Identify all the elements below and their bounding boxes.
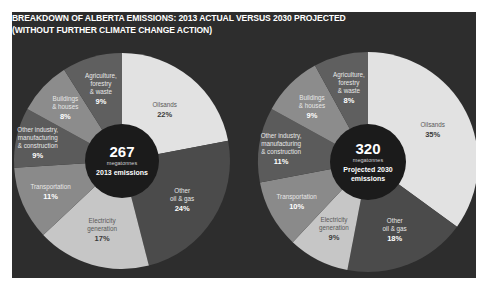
slice-label-text: Electricity [89,217,117,225]
center-caption: 2013 emissions [96,169,148,176]
center-unit: megatonnes [107,160,138,166]
slice-label-text: Transportation [277,193,318,201]
slice-percent: 22% [157,110,172,119]
slice-label-text: Transportation [30,183,71,191]
slice-label-text: & waste [338,87,361,94]
slice-label-text: oil & gas [383,225,407,233]
slice-percent: 9% [32,151,43,160]
center-caption: emissions [351,175,385,182]
slice-label-text: Agriculture, [333,71,365,79]
slice-label-text: Agriculture, [85,72,117,80]
slice-label-text: Other [174,187,190,194]
slice-label-text: & construction [18,142,58,149]
slice-label-text: Buildings [299,94,325,102]
slice-label-text: Other industry, [17,126,58,134]
slice-label-text: & waste [90,88,113,95]
chart-title: BREAKDOWN OF ALBERTA EMISSIONS: 2013 ACT… [12,12,352,36]
slice-percent: 9% [95,97,106,106]
slice-percent: 17% [95,234,110,243]
pie-chart-2030: Oilsands35%Otheroil & gas18%Electricityg… [258,52,476,272]
slice-percent: 8% [343,96,354,105]
slice-label-text: Other [387,217,403,224]
center-total-value: 267 [109,143,134,160]
slice-label-text: oil & gas [170,195,194,203]
chart-title-line2: (WITHOUT FURTHER CLIMATE CHANGE ACTION) [12,24,352,36]
slice-label-text: generation [87,225,117,233]
slice-percent: 11% [274,157,289,166]
chart-title-line1: BREAKDOWN OF ALBERTA EMISSIONS: 2013 ACT… [12,12,352,24]
slice-label-text: generation [319,224,349,232]
slice-percent: 24% [175,204,190,213]
slice-label-text: & construction [261,148,301,155]
slice-percent: 9% [307,111,318,120]
center-caption: Projected 2030 [343,166,393,174]
slice-label-text: Electricity [321,216,349,224]
slice-label-text: Oilsands [152,101,177,108]
slice-label-text: manufacturing [261,140,301,148]
center-unit: megatonnes [353,157,384,163]
slice-label-text: Buildings [53,95,79,103]
slice-percent: 18% [387,234,402,243]
slice-label-text: forestry [338,79,360,87]
chart-panel: Oilsands22%Otheroil & gas24%Electricityg… [12,12,476,278]
slice-label-text: Other industry, [261,132,302,140]
center-total-value: 320 [355,140,380,157]
slice-percent: 11% [43,192,58,201]
slice-label-text: & houses [299,102,325,109]
slice-label-text: forestry [90,80,112,88]
slice-label-text: manufacturing [18,134,58,142]
pie-charts: Oilsands22%Otheroil & gas24%Electricityg… [12,12,476,278]
slice-percent: 8% [60,112,71,121]
slice-percent: 35% [425,130,440,139]
slice-percent: 9% [329,233,340,242]
slice-label-text: Oilsands [420,121,445,128]
slice-percent: 10% [289,202,304,211]
pie-chart-2013: Oilsands22%Otheroil & gas24%Electricityg… [14,53,230,269]
slice-label-text: & houses [52,103,78,110]
